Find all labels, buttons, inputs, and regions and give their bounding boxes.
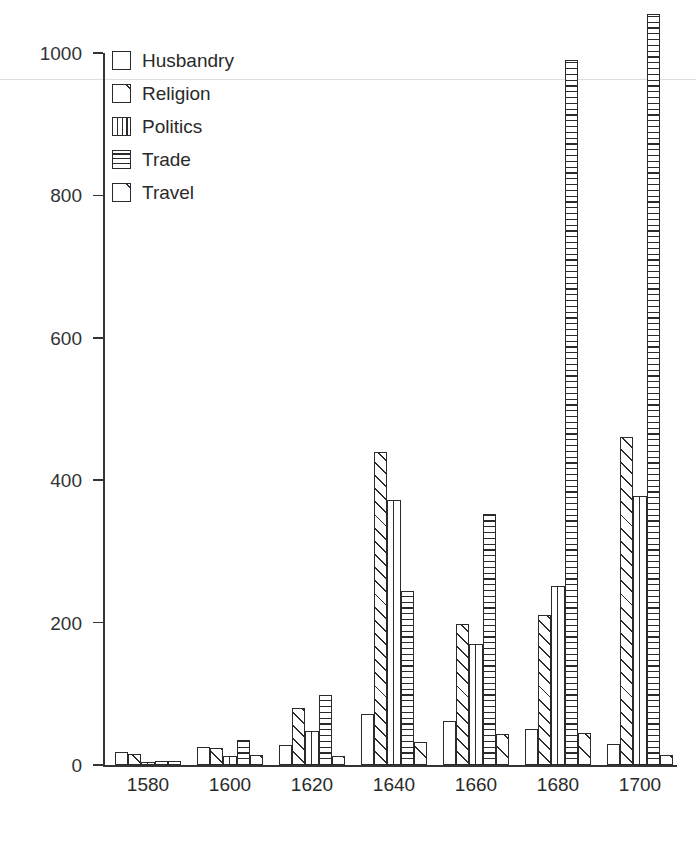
bar-1660-travel[interactable] xyxy=(496,734,509,765)
y-tick-1000 xyxy=(93,52,103,54)
y-tick-400 xyxy=(93,479,103,481)
y-tick-600 xyxy=(93,337,103,339)
bar-1680-travel[interactable] xyxy=(578,733,591,765)
bar-1600-husbandry[interactable] xyxy=(197,747,210,765)
x-tick-label-1620: 1620 xyxy=(282,775,342,794)
bar-1700-politics[interactable] xyxy=(633,496,646,765)
bar-group-1680 xyxy=(525,53,591,765)
y-tick-label-800: 800 xyxy=(50,186,82,205)
bar-1680-politics[interactable] xyxy=(551,586,564,765)
y-tick-800 xyxy=(93,195,103,197)
bar-group-1580 xyxy=(115,53,181,765)
bar-1700-trade[interactable] xyxy=(647,14,660,765)
bar-1700-husbandry[interactable] xyxy=(607,744,620,765)
x-tick-label-1660: 1660 xyxy=(446,775,506,794)
bar-1580-travel[interactable] xyxy=(168,761,181,765)
y-tick-label-400: 400 xyxy=(50,471,82,490)
bar-1660-religion[interactable] xyxy=(456,624,469,765)
bar-1640-husbandry[interactable] xyxy=(361,714,374,765)
x-tick-label-1580: 1580 xyxy=(118,775,178,794)
bar-1660-husbandry[interactable] xyxy=(443,721,456,765)
bars-layer xyxy=(104,53,678,765)
bar-1640-travel[interactable] xyxy=(414,742,427,765)
bar-1700-religion[interactable] xyxy=(620,437,633,765)
y-tick-0 xyxy=(93,764,103,766)
bar-1620-travel[interactable] xyxy=(332,756,345,765)
bar-1640-trade[interactable] xyxy=(401,591,414,765)
y-tick-200 xyxy=(93,622,103,624)
bar-1620-politics[interactable] xyxy=(305,731,318,765)
bar-group-1700 xyxy=(607,53,673,765)
bar-1680-trade[interactable] xyxy=(565,60,578,765)
x-tick-label-1600: 1600 xyxy=(200,775,260,794)
bar-group-1660 xyxy=(443,53,509,765)
bar-1600-trade[interactable] xyxy=(237,740,250,765)
x-tick-label-1640: 1640 xyxy=(364,775,424,794)
bar-1660-politics[interactable] xyxy=(469,644,482,765)
x-tick-label-1680: 1680 xyxy=(528,775,588,794)
bar-1620-religion[interactable] xyxy=(292,708,305,765)
bar-group-1620 xyxy=(279,53,345,765)
bar-1580-politics[interactable] xyxy=(141,762,154,765)
bar-1640-religion[interactable] xyxy=(374,452,387,765)
y-tick-label-1000: 1000 xyxy=(40,44,82,63)
bar-1640-politics[interactable] xyxy=(387,500,400,765)
bar-1600-travel[interactable] xyxy=(250,755,263,765)
y-tick-label-200: 200 xyxy=(50,614,82,633)
bar-chart-figure: 02004006008001000 HusbandryReligionPolit… xyxy=(0,0,696,842)
bar-1580-trade[interactable] xyxy=(155,761,168,765)
bar-1620-trade[interactable] xyxy=(319,695,332,765)
y-tick-label-600: 600 xyxy=(50,329,82,348)
bar-1600-politics[interactable] xyxy=(223,756,236,765)
bar-1660-trade[interactable] xyxy=(483,514,496,765)
x-tick-label-1700: 1700 xyxy=(610,775,670,794)
y-tick-label-0: 0 xyxy=(71,756,82,775)
bar-1700-travel[interactable] xyxy=(660,755,673,765)
bar-1600-religion[interactable] xyxy=(210,748,223,765)
bar-1680-husbandry[interactable] xyxy=(525,729,538,765)
bar-1680-religion[interactable] xyxy=(538,615,551,765)
bar-1580-religion[interactable] xyxy=(128,754,141,765)
bar-group-1600 xyxy=(197,53,263,765)
bar-group-1640 xyxy=(361,53,427,765)
bar-1580-husbandry[interactable] xyxy=(115,752,128,765)
bar-1620-husbandry[interactable] xyxy=(279,745,292,765)
x-axis-line xyxy=(103,765,677,767)
